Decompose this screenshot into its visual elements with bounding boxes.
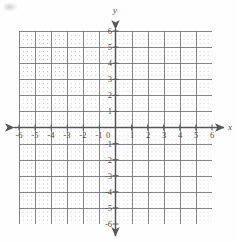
y-tick-label-2: 2: [108, 91, 112, 100]
y-tick-label-5: 5: [108, 43, 112, 52]
y-tick-label-6: 6: [108, 27, 112, 36]
x-tick-label--6: -6: [15, 131, 22, 140]
x-tick-label-6: 6: [210, 131, 214, 140]
x-tick-label--1: -1: [95, 131, 102, 140]
coordinate-plane-figure: -6 -5 -4 -3 -2 -1 1 2 3 4 5 6 0 6 5 4 3 …: [0, 0, 237, 243]
y-tick-label--6: -6: [105, 220, 112, 229]
x-tick-label-3: 3: [162, 131, 166, 140]
y-tick-label--4: -4: [105, 188, 112, 197]
x-tick-label--3: -3: [63, 131, 70, 140]
x-axis-label: x: [228, 123, 232, 132]
y-axis-label: y: [113, 6, 117, 15]
axes-layer: [0, 0, 237, 243]
y-tick-label--5: -5: [105, 204, 112, 213]
y-tick-label-3: 3: [108, 75, 112, 84]
x-tick-label--4: -4: [47, 131, 54, 140]
x-tick-label-1: 1: [130, 131, 134, 140]
x-tick-label--5: -5: [31, 131, 38, 140]
y-tick-label-1: 1: [108, 107, 112, 116]
x-tick-label--2: -2: [79, 131, 86, 140]
x-tick-label-2: 2: [146, 131, 150, 140]
y-tick-label-4: 4: [108, 59, 112, 68]
y-tick-label--1: -1: [105, 140, 112, 149]
y-tick-label--3: -3: [105, 172, 112, 181]
x-tick-label-5: 5: [194, 131, 198, 140]
y-tick-label--2: -2: [105, 156, 112, 165]
x-tick-label-4: 4: [178, 131, 182, 140]
